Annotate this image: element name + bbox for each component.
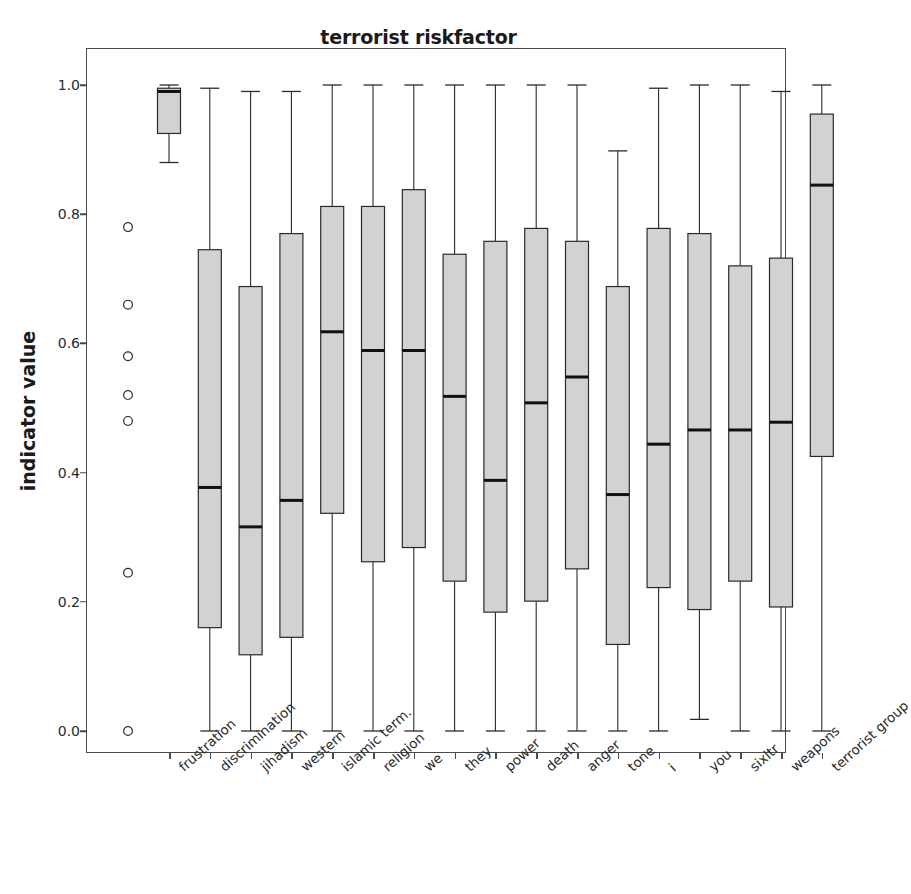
outlier-marker [124, 300, 133, 309]
box-plot-item [484, 85, 507, 731]
chart-title: terrorist riskfactor [0, 26, 837, 48]
box-plot-item [124, 85, 181, 735]
box-iqr-rect [280, 234, 303, 638]
box-iqr-rect [239, 287, 262, 655]
box-plot-item [362, 85, 385, 731]
box-plot-item [810, 85, 833, 731]
x-tick-mark [210, 753, 212, 759]
x-tick-label-anchor: you [705, 762, 706, 763]
box-iqr-rect [647, 228, 670, 587]
x-tick-label: we [420, 762, 431, 775]
x-tick-label: tone [624, 762, 635, 775]
outlier-marker [124, 727, 133, 736]
box-plot-item [606, 151, 629, 731]
x-tick-mark [577, 753, 579, 759]
outlier-marker [124, 417, 133, 426]
x-tick-label: western [298, 762, 309, 775]
x-tick-label-anchor: power [501, 762, 502, 763]
x-tick-label-anchor: western [297, 762, 298, 763]
x-tick-mark [659, 753, 661, 759]
x-tick-label-anchor: weapons [787, 762, 788, 763]
box-plot-item [443, 85, 466, 731]
outlier-marker [124, 352, 133, 361]
x-tick-label-anchor: sixltr [746, 762, 747, 763]
x-tick-label: sixltr [746, 762, 757, 775]
x-tick-label-anchor: islamic term. [338, 762, 339, 763]
x-tick-label: discrimination [216, 762, 227, 775]
x-tick-label-anchor: i [665, 762, 666, 763]
x-tick-label-anchor: religion [379, 762, 380, 763]
x-tick-mark [373, 753, 375, 759]
y-axis-tick-labels: 0.00.20.40.60.81.0 [26, 0, 80, 894]
x-tick-mark [699, 753, 701, 759]
x-tick-label: weapons [787, 762, 798, 775]
y-tick-label: 0.2 [34, 594, 80, 610]
x-tick-label: religion [379, 762, 390, 775]
x-tick-mark [414, 753, 416, 759]
box-plot-item [770, 91, 793, 731]
x-tick-label-anchor: we [420, 762, 421, 763]
y-tick-label: 1.0 [34, 77, 80, 93]
x-tick-label: islamic term. [338, 762, 349, 775]
box-plot-item [239, 91, 262, 731]
outlier-marker [124, 391, 133, 400]
x-tick-label: i [665, 762, 676, 775]
x-tick-label-anchor: jihadism [257, 762, 258, 763]
box-plot-item [647, 88, 670, 731]
box-plot-item [198, 88, 221, 731]
box-plot-item [402, 85, 425, 731]
box-iqr-rect [362, 206, 385, 561]
y-tick-label: 0.8 [34, 206, 80, 222]
x-tick-mark [822, 753, 824, 759]
box-plot-series [86, 48, 786, 753]
x-tick-label: you [706, 762, 717, 775]
x-tick-mark [740, 753, 742, 759]
box-iqr-rect [484, 241, 507, 612]
box-iqr-rect [566, 241, 589, 569]
x-tick-mark [291, 753, 293, 759]
x-tick-label: anger [583, 762, 594, 775]
x-tick-label-anchor: frustration [175, 762, 176, 763]
box-iqr-rect [402, 190, 425, 548]
box-iqr-rect [525, 228, 548, 601]
x-tick-label-anchor: death [542, 762, 543, 763]
x-tick-label-anchor: anger [583, 762, 584, 763]
outlier-marker [124, 223, 133, 232]
y-tick-label: 0.0 [34, 723, 80, 739]
box-plot-item [729, 85, 752, 731]
box-plot-item [321, 85, 344, 731]
x-tick-label: power [502, 762, 513, 775]
x-tick-label: jihadism [257, 762, 268, 775]
x-tick-mark [781, 753, 783, 759]
box-iqr-rect [443, 254, 466, 581]
y-tick-label: 0.4 [34, 465, 80, 481]
x-tick-label: frustration [175, 762, 186, 775]
x-tick-label: they [461, 762, 472, 775]
box-iqr-rect [688, 234, 711, 610]
box-plot-item [688, 85, 711, 719]
x-tick-mark [332, 753, 334, 759]
box-iqr-rect [606, 287, 629, 645]
box-iqr-rect [198, 250, 221, 628]
x-tick-mark [251, 753, 253, 759]
x-tick-mark [618, 753, 620, 759]
x-tick-label-anchor: terrorist group [828, 762, 829, 763]
x-tick-label-anchor: discrimination [216, 762, 217, 763]
x-tick-mark [536, 753, 538, 759]
box-iqr-rect [729, 266, 752, 581]
x-tick-label-anchor: they [461, 762, 462, 763]
box-plot-item [525, 85, 548, 731]
x-tick-label-anchor: tone [624, 762, 625, 763]
x-tick-label: terrorist group [828, 762, 839, 775]
x-tick-mark [455, 753, 457, 759]
x-tick-mark [495, 753, 497, 759]
box-iqr-rect [158, 88, 181, 133]
outlier-marker [124, 568, 133, 577]
box-iqr-rect [321, 206, 344, 513]
x-tick-label: death [542, 762, 553, 775]
box-plot-item [280, 91, 303, 731]
box-iqr-rect [770, 258, 793, 607]
y-tick-label: 0.6 [34, 335, 80, 351]
box-plot-item [566, 85, 589, 731]
